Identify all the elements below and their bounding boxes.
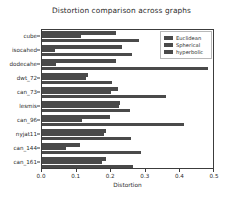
x-tick-label: 0.4 bbox=[175, 173, 184, 179]
bar bbox=[42, 157, 106, 160]
chart-figure: Distortion comparison across graphs cube… bbox=[0, 0, 243, 198]
bar bbox=[42, 151, 141, 154]
x-tick-mark bbox=[41, 169, 42, 172]
legend-item: hyperbolic bbox=[164, 49, 208, 55]
bar bbox=[42, 133, 104, 136]
bar bbox=[42, 161, 102, 164]
bar bbox=[42, 87, 118, 90]
chart-title: Distortion comparison across graphs bbox=[0, 6, 243, 15]
bar-group bbox=[42, 157, 213, 168]
bar bbox=[42, 53, 132, 56]
legend-item: Spherical bbox=[164, 42, 208, 48]
bar bbox=[42, 137, 131, 140]
y-tick-label: can_73 bbox=[1, 89, 37, 95]
y-tick-mark bbox=[37, 92, 40, 93]
bar bbox=[42, 77, 86, 80]
legend-swatch-icon bbox=[164, 43, 173, 47]
bar bbox=[42, 147, 66, 150]
bar bbox=[42, 31, 116, 34]
x-tick-label: 0.5 bbox=[210, 173, 219, 179]
legend-swatch-icon bbox=[164, 36, 173, 40]
y-tick-mark bbox=[37, 64, 40, 65]
x-tick-mark bbox=[145, 169, 146, 172]
bar bbox=[42, 123, 184, 126]
bar bbox=[42, 95, 166, 98]
bar bbox=[42, 81, 112, 84]
y-tick-mark bbox=[37, 106, 40, 107]
y-tick-label: lesmis bbox=[1, 103, 37, 109]
bar-group bbox=[42, 129, 213, 140]
bar bbox=[42, 165, 133, 168]
y-tick-label: dodecahe bbox=[1, 61, 37, 67]
y-tick-mark bbox=[37, 50, 40, 51]
y-tick-label: can_96 bbox=[1, 117, 37, 123]
bar bbox=[42, 119, 82, 122]
bar-group bbox=[42, 73, 213, 84]
legend-swatch-icon bbox=[164, 50, 173, 54]
bar bbox=[42, 91, 111, 94]
x-tick-mark bbox=[110, 169, 111, 172]
x-tick-label: 0.2 bbox=[106, 173, 115, 179]
bar bbox=[42, 49, 55, 52]
y-tick-mark bbox=[37, 120, 40, 121]
y-tick-mark bbox=[37, 148, 40, 149]
bar bbox=[42, 105, 119, 108]
y-tick-label: nyjat11 bbox=[1, 131, 37, 137]
y-tick-mark bbox=[37, 36, 40, 37]
x-tick-mark bbox=[179, 169, 180, 172]
bar bbox=[42, 63, 56, 66]
bar-group bbox=[42, 143, 213, 154]
x-axis-title: Distortion bbox=[41, 182, 214, 188]
x-tick-mark bbox=[76, 169, 77, 172]
bar bbox=[42, 143, 80, 146]
bar bbox=[42, 109, 130, 112]
chart-legend: EuclideanSphericalhyperbolic bbox=[160, 31, 212, 59]
x-tick-label: 0.3 bbox=[140, 173, 149, 179]
bar bbox=[42, 73, 88, 76]
bar bbox=[42, 35, 81, 38]
y-tick-mark bbox=[37, 78, 40, 79]
y-tick-label: dwt_72 bbox=[1, 75, 37, 81]
bar-group bbox=[42, 87, 213, 98]
bar bbox=[42, 67, 208, 70]
legend-label: Euclidean bbox=[176, 35, 201, 41]
bar-group bbox=[42, 101, 213, 112]
bar bbox=[42, 101, 120, 104]
bar bbox=[42, 39, 139, 42]
y-tick-label: isocahed bbox=[1, 47, 37, 53]
y-tick-label: cube bbox=[1, 33, 37, 39]
legend-label: hyperbolic bbox=[176, 49, 203, 55]
bar-group bbox=[42, 59, 213, 70]
bar-group bbox=[42, 115, 213, 126]
y-tick-label: can_161 bbox=[1, 159, 37, 165]
legend-label: Spherical bbox=[176, 42, 200, 48]
legend-item: Euclidean bbox=[164, 35, 208, 41]
x-tick-label: 0.0 bbox=[37, 173, 46, 179]
bar bbox=[42, 129, 106, 132]
bar bbox=[42, 115, 110, 118]
y-tick-label: can_144 bbox=[1, 145, 37, 151]
x-tick-label: 0.1 bbox=[71, 173, 80, 179]
x-tick-mark bbox=[213, 169, 214, 172]
y-tick-mark bbox=[37, 162, 40, 163]
bar bbox=[42, 59, 116, 62]
bar bbox=[42, 45, 122, 48]
y-tick-mark bbox=[37, 134, 40, 135]
